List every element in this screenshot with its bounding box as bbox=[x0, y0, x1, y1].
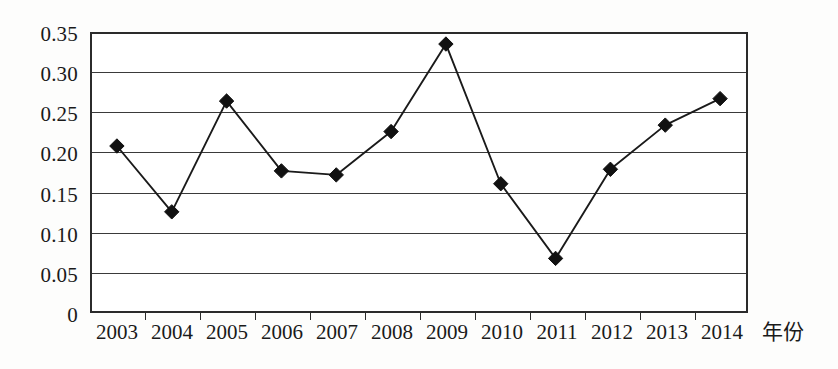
series-line bbox=[117, 44, 720, 258]
data-point-2011 bbox=[548, 251, 562, 265]
line-chart: 0.35 0.30 0.25 0.20 0.15 0.10 0.05 0 200… bbox=[0, 0, 838, 369]
data-point-2009 bbox=[439, 37, 453, 51]
data-point-2014 bbox=[713, 91, 727, 105]
data-series-layer bbox=[0, 0, 838, 369]
data-point-2010 bbox=[494, 177, 508, 191]
